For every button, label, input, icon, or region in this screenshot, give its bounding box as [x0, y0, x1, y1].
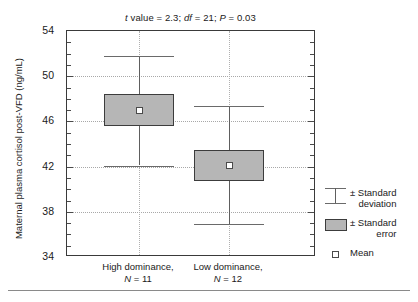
y-tick-label-46: 46	[42, 114, 54, 126]
legend: ± Standard deviation ± Standard error Me…	[322, 186, 418, 265]
series-low-dominance	[67, 31, 314, 255]
legend-label-standard-deviation: ± Standard deviation	[350, 186, 396, 209]
mean-marker-low	[226, 162, 233, 169]
sd-whisker-cap-upper-low	[194, 106, 264, 107]
title-p-rest: = 0.03	[226, 12, 256, 23]
legend-se-line1: ± Standard	[350, 217, 396, 228]
x-label-low-line2: N = 12	[173, 273, 283, 285]
open-square-icon	[322, 246, 350, 258]
plot-area	[66, 30, 315, 256]
chart-title: t value = 2.3; df = 21; P = 0.03	[66, 12, 315, 23]
legend-mean-line1: Mean	[350, 247, 374, 258]
ibeam-icon	[322, 186, 350, 206]
x-label-low-n-symbol: N	[214, 273, 221, 284]
x-axis-label-low-dominance: Low dominance, N = 12	[173, 261, 283, 285]
bottom-divider	[8, 290, 410, 291]
title-t-rest: value = 2.3;	[128, 12, 184, 23]
legend-se-line2: error	[350, 228, 396, 239]
y-axis: 54 50 46 42 38 34 Maternal plasma cortis…	[0, 0, 62, 302]
x-label-high-n-value: = 11	[131, 273, 152, 284]
figure-container: t value = 2.3; df = 21; P = 0.03 54 50 4…	[0, 0, 418, 302]
x-label-low-n-value: = 12	[221, 273, 242, 284]
title-df-symbol: df	[184, 12, 192, 23]
y-tick-label-34: 34	[42, 250, 54, 262]
y-tick-label-54: 54	[42, 24, 54, 36]
y-tick-label-42: 42	[42, 160, 54, 172]
legend-item-standard-error: ± Standard error	[322, 216, 418, 239]
legend-sd-line2: deviation	[350, 198, 396, 209]
legend-item-standard-deviation: ± Standard deviation	[322, 186, 418, 209]
x-label-low-line1: Low dominance,	[173, 261, 283, 273]
y-axis-title: Maternal plasma cortisol post-VFD (ng/mL…	[13, 39, 24, 259]
legend-item-mean: Mean	[322, 246, 418, 258]
y-tick-label-50: 50	[42, 69, 54, 81]
sd-whisker-cap-lower-low	[194, 224, 264, 225]
gray-box-icon	[322, 216, 350, 236]
y-tick-label-38: 38	[42, 205, 54, 217]
legend-label-mean: Mean	[350, 246, 374, 258]
title-df-rest: = 21;	[192, 12, 219, 23]
legend-sd-line1: ± Standard	[350, 187, 396, 198]
legend-label-standard-error: ± Standard error	[350, 216, 396, 239]
